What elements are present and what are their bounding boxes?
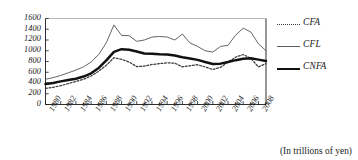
legend-item-cfa: CFA [277,16,358,38]
chart-figure: 16001400120010008006004002000 1980198219… [0,0,358,160]
legend-swatch-cfl-solid-line [277,46,300,47]
legend-label-cfa: CFA [303,17,320,28]
x-axis-tick-label: 1986 [94,94,109,112]
legend-item-cfl: CFL [277,38,358,60]
x-axis-tick-label: 2008 [261,94,276,112]
x-axis-tick-label: 1984 [79,94,94,112]
legend-item-cnfa: CNFA [277,60,358,82]
legend-label-cfl: CFL [303,39,321,50]
x-axis-tick-label: 1982 [63,94,78,112]
x-axis-tick-label: 1996 [170,94,185,112]
x-axis-tick-label: 1998 [185,94,200,112]
x-axis-tick-label: 1994 [155,94,170,112]
x-axis-tick-label: 2000 [200,94,215,112]
x-axis-tick-label: 2006 [246,94,261,112]
x-axis-tick-label: 1980 [48,94,63,112]
legend-label-cnfa: CNFA [303,61,327,72]
legend-swatch-cfa-dotted-line [277,24,300,25]
x-axis-tick-label: 2004 [231,94,246,112]
x-axis-tick-label: 2002 [215,94,230,112]
x-axis-tick-label: 1990 [124,94,139,112]
chart-legend: CFA CFL CNFA [277,16,358,82]
x-axis-tick-label: 1992 [139,94,154,112]
legend-swatch-cnfa-bold-line [277,68,300,70]
chart-unit-caption: (In trillions of yen) [280,146,352,157]
x-axis-tick-label: 1988 [109,94,124,112]
